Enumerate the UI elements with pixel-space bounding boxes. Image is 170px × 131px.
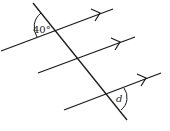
angle-label-top: 40° [33,24,51,35]
parallel-lines-diagram: 40° d [0,0,170,131]
parallel-line-3 [64,73,161,110]
transversal-line [33,3,127,120]
parallel-line-1 [1,9,113,51]
angle-label-bottom: d [116,93,122,104]
